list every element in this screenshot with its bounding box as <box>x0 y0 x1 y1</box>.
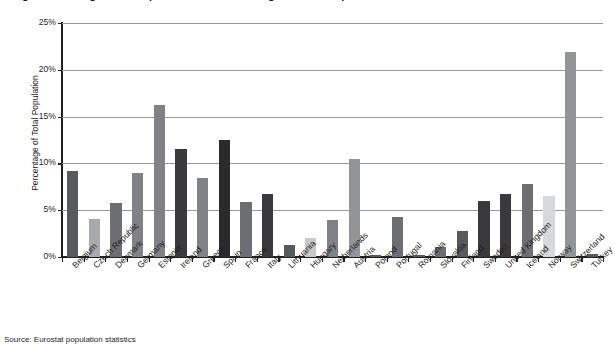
y-tick-label: 20% <box>0 64 56 74</box>
bar-column[interactable] <box>197 23 208 257</box>
y-tick-label: 25% <box>0 17 56 27</box>
bar-column[interactable] <box>175 23 186 257</box>
y-tick-mark <box>58 70 62 71</box>
bar-series <box>62 23 603 257</box>
bar-column[interactable] <box>154 23 165 257</box>
x-tick-mark <box>62 257 63 262</box>
bar[interactable] <box>565 52 576 257</box>
bar-column[interactable] <box>262 23 273 257</box>
bar[interactable] <box>154 105 165 257</box>
bar-column[interactable] <box>392 23 403 257</box>
y-tick-label: 5% <box>0 204 56 214</box>
y-tick-label: 0% <box>0 251 56 261</box>
y-tick-label: 10% <box>0 157 56 167</box>
bar-column[interactable] <box>327 23 338 257</box>
chart-title: Figure 3. Foreign-born Population as a P… <box>12 0 385 2</box>
bar-column[interactable] <box>457 23 468 257</box>
bar-column[interactable] <box>413 23 424 257</box>
bar-column[interactable] <box>349 23 360 257</box>
bar-column[interactable] <box>305 23 316 257</box>
bar-column[interactable] <box>370 23 381 257</box>
y-tick-mark <box>58 210 62 211</box>
bar-column[interactable] <box>478 23 489 257</box>
bar-column[interactable] <box>500 23 511 257</box>
bar-column[interactable] <box>284 23 295 257</box>
y-tick-mark <box>58 163 62 164</box>
bar-column[interactable] <box>219 23 230 257</box>
bar-column[interactable] <box>110 23 121 257</box>
bar[interactable] <box>197 178 208 257</box>
source-note: Source: Eurostat population statistics <box>4 335 136 345</box>
bar-column[interactable] <box>522 23 533 257</box>
bar-column[interactable] <box>435 23 446 257</box>
bar[interactable] <box>175 149 186 257</box>
y-tick-mark <box>58 117 62 118</box>
bar[interactable] <box>219 140 230 257</box>
bar-column[interactable] <box>67 23 78 257</box>
y-tick-mark <box>58 23 62 24</box>
bar[interactable] <box>240 202 251 257</box>
x-axis-labels: BelgiumCzech RepublicDenmarkGermanyEston… <box>62 263 607 323</box>
plot-area <box>62 23 603 257</box>
bar[interactable] <box>67 171 78 257</box>
y-tick-label: 15% <box>0 111 56 121</box>
bar-column[interactable] <box>565 23 576 257</box>
bar-column[interactable] <box>587 23 598 257</box>
bar-column[interactable] <box>89 23 100 257</box>
bar-column[interactable] <box>240 23 251 257</box>
